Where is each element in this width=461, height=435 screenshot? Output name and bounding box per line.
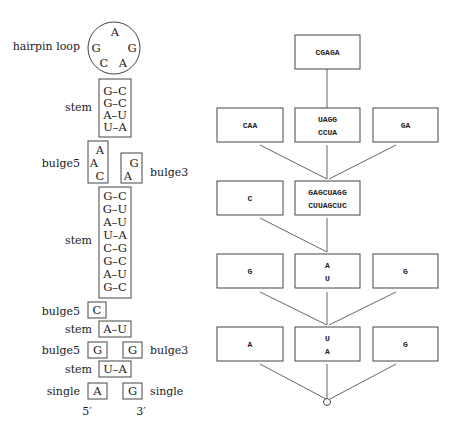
tree-node-label: C (248, 194, 253, 203)
stem-2: stem G–C G–U A–U U–A C–G G–C A–U G–C (65, 187, 131, 298)
secondary-structure: hairpin loop A G G C A stem G–C G–C A–U … (13, 22, 189, 418)
bulge-base: G (129, 156, 138, 170)
five-prime-label: 5′ (82, 405, 92, 418)
tree-node-label: A (248, 340, 253, 349)
base-pair: C–G (103, 241, 127, 255)
hairpin-base: A (110, 25, 120, 39)
tree-node-label: U (325, 334, 330, 343)
bulge-group-3: bulge5 G G bulge3 (42, 342, 188, 358)
hairpin-loop: hairpin loop A G G C A (13, 22, 140, 74)
single-base: G (128, 384, 137, 398)
tree-node-label: U (325, 274, 330, 283)
bulge-group-1: bulge5 A A C G A bulge3 (42, 141, 188, 183)
base-pair: A–U (102, 215, 127, 229)
single-label: single (47, 385, 80, 398)
hairpin-base: G (91, 41, 100, 55)
tree-node-label: UAGG (318, 115, 337, 124)
tree-node-label: A (325, 347, 330, 356)
base-pair: G–C (103, 254, 127, 268)
base-pair: U–A (103, 362, 127, 376)
tree-node-label: GA (401, 121, 411, 130)
tree-level-1: CAA UAGG CCUA GA (217, 108, 438, 142)
tree-node-label: G (248, 267, 253, 276)
stem-label: stem (65, 101, 93, 114)
structure-tree: CGAGA CAA UAGG CCUA GA C GAGCUAGG CUUAGC… (217, 35, 438, 406)
tree-node-label: GAGCUAGG (308, 188, 347, 197)
hairpin-base: C (100, 56, 109, 70)
bulge3-label: bulge3 (150, 344, 188, 357)
stem-3: stem A–U (65, 321, 131, 337)
stem-label: stem (65, 234, 93, 247)
tree-node-label: CUUAGCUC (308, 201, 347, 210)
base-pair: A–U (102, 322, 127, 336)
tree-level-4: A U A G (217, 327, 438, 361)
base-pair: G–C (103, 189, 127, 203)
tree-level-2: C GAGCUAGG CUUAGCUC (217, 181, 360, 215)
stem-1: stem G–C G–C A–U U–A (65, 79, 131, 137)
bulge5-label: bulge5 (42, 305, 80, 318)
hairpin-base: A (118, 56, 128, 70)
tree-node-label: CCUA (318, 128, 337, 137)
tree-edge (329, 145, 396, 179)
tree-node-label: G (403, 340, 408, 349)
bulge-base: A (123, 169, 133, 183)
stem-label: stem (65, 363, 93, 376)
single-base: A (92, 384, 102, 398)
bulge-base: C (93, 303, 102, 317)
bulge3-label: bulge3 (150, 166, 188, 179)
tree-edge (329, 292, 396, 325)
tree-edge (260, 292, 327, 325)
bulge-base: A (95, 143, 105, 157)
bulge-base: C (96, 169, 105, 183)
base-pair: G–U (103, 202, 128, 216)
hairpin-loop-label: hairpin loop (13, 40, 80, 53)
tree-node-label: CGAGA (315, 48, 339, 57)
three-prime-label: 3′ (136, 405, 146, 418)
base-pair: U–A (103, 228, 127, 242)
single-label: single (150, 385, 183, 398)
bulge5-label: bulge5 (42, 157, 80, 170)
bulge-base: A (89, 156, 99, 170)
hairpin-base: G (127, 41, 136, 55)
tree-edge (260, 145, 327, 179)
tree-level-0: CGAGA (295, 35, 360, 69)
base-pair: A–U (102, 267, 127, 281)
tree-root-circle-icon (324, 399, 331, 406)
bulge-group-2: bulge5 C (42, 302, 106, 318)
single-strands: single A G single (47, 383, 184, 399)
tree-edge (260, 364, 326, 399)
stem-label: stem (65, 323, 93, 336)
tree-node-label: CAA (243, 121, 258, 130)
base-pair: U–A (103, 120, 127, 134)
tree-node-label: G (403, 267, 408, 276)
tree-node-label: A (325, 261, 330, 270)
bulge-base: G (128, 343, 137, 357)
tree-edge (260, 218, 327, 252)
stem-4: stem U–A (65, 361, 131, 377)
bulge-base: G (93, 343, 102, 357)
tree-edge (330, 364, 396, 399)
tree-level-3: G A U G (217, 254, 438, 288)
bulge5-label: bulge5 (42, 344, 80, 357)
rna-structure-diagram: hairpin loop A G G C A stem G–C G–C A–U … (0, 0, 461, 435)
base-pair: G–C (103, 280, 127, 294)
